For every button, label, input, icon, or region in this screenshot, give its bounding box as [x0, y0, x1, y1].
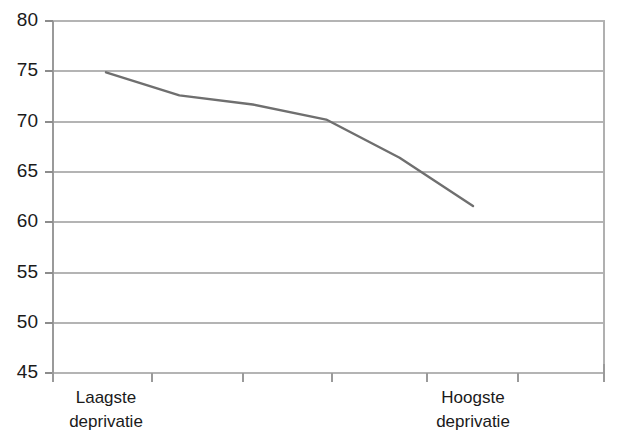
y-axis-label-50: 50 [17, 311, 38, 332]
y-axis-label-45: 45 [17, 361, 38, 382]
x-axis-label-lowest-line2: deprivatie [69, 412, 143, 431]
chart-background [0, 0, 624, 447]
y-axis-label-75: 75 [17, 59, 38, 80]
y-axis-label-60: 60 [17, 210, 38, 231]
x-axis-label-lowest-line1: Laagste [76, 388, 137, 407]
x-axis-label-highest-line2: deprivatie [436, 412, 510, 431]
y-axis-label-55: 55 [17, 261, 38, 282]
x-axis-label-highest-line1: Hoogste [441, 388, 504, 407]
chart-canvas: 80 75 70 65 60 55 50 45 Laagste deprivat… [0, 0, 624, 447]
line-chart: 80 75 70 65 60 55 50 45 Laagste deprivat… [0, 0, 624, 447]
y-axis-label-65: 65 [17, 160, 38, 181]
y-axis-label-80: 80 [17, 9, 38, 30]
y-axis-label-70: 70 [17, 110, 38, 131]
